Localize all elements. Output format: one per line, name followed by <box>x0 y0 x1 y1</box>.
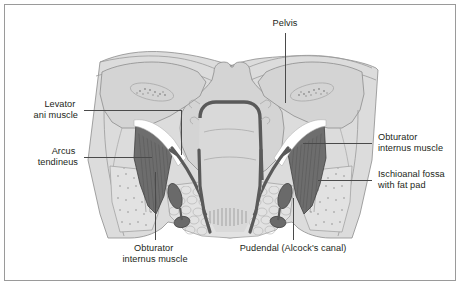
label-pelvis: Pelvis <box>273 18 298 28</box>
label-pudendal-canal-line1: Pudendal (Alcock's canal) <box>240 243 347 253</box>
label-pelvis-line1: Pelvis <box>273 18 298 28</box>
label-levator-ani-line2: ani muscle <box>34 110 78 120</box>
label-arcus-tendineus-line2: tendineus <box>38 157 79 167</box>
label-obturator-internus-right-line2: internus muscle <box>378 143 443 153</box>
label-ischioanal-fossa-line2: with fat pad <box>377 180 426 190</box>
label-pudendal-canal: Pudendal (Alcock's canal) <box>240 243 347 253</box>
label-obturator-internus-bottom-line1: Obturator <box>134 243 173 253</box>
label-levator-ani: Levator ani muscle <box>34 99 78 120</box>
label-ischioanal-fossa: Ischioanal fossa with fat pad <box>377 169 447 190</box>
label-obturator-internus-right-line1: Obturator <box>378 132 417 142</box>
label-obturator-internus-right: Obturator internus muscle <box>378 132 443 153</box>
anatomy-illustration: Pelvis Levator ani muscle Arcus tendineu… <box>0 0 461 286</box>
label-arcus-tendineus-line1: Arcus <box>52 146 76 156</box>
label-levator-ani-line1: Levator <box>44 99 75 109</box>
label-arcus-tendineus: Arcus tendineus <box>38 146 79 167</box>
label-ischioanal-fossa-line1: Ischioanal fossa <box>378 169 446 179</box>
figure-root: Pelvis Levator ani muscle Arcus tendineu… <box>0 0 461 286</box>
label-obturator-internus-bottom-line2: internus muscle <box>122 254 187 264</box>
label-obturator-internus-bottom: Obturator internus muscle <box>122 243 187 264</box>
